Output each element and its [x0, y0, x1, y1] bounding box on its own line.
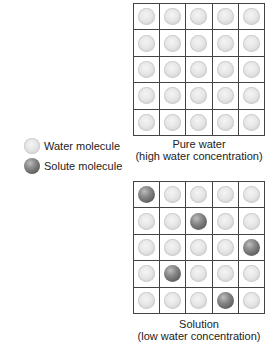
water-molecule-icon — [164, 87, 181, 104]
grid-cell — [239, 30, 265, 56]
grid-cell — [134, 261, 160, 287]
grid-cell — [213, 30, 239, 56]
water-molecule-icon — [164, 35, 181, 52]
water-molecule-icon — [138, 35, 155, 52]
water-molecule-icon — [164, 239, 181, 256]
grid-cell — [186, 57, 212, 83]
grid-cell — [186, 4, 212, 30]
water-molecule-icon — [217, 186, 234, 203]
grid-cell — [213, 288, 239, 314]
water-molecule-icon — [217, 35, 234, 52]
solute-molecule-icon — [243, 239, 260, 256]
water-molecule-icon — [24, 138, 40, 154]
solution-caption: Solution (low water concentration) — [133, 318, 265, 342]
grid-cell — [186, 30, 212, 56]
water-molecule-icon — [164, 8, 181, 25]
grid-cell — [186, 288, 212, 314]
grid-cell — [160, 235, 186, 261]
water-molecule-icon — [217, 265, 234, 282]
grid-cell — [213, 235, 239, 261]
water-molecule-icon — [164, 292, 181, 309]
grid-cell — [186, 261, 212, 287]
grid-cell — [160, 83, 186, 109]
grid-cell — [239, 83, 265, 109]
grid-cell — [213, 182, 239, 208]
water-molecule-icon — [138, 8, 155, 25]
water-molecule-icon — [243, 186, 260, 203]
grid-cell — [186, 208, 212, 234]
water-molecule-icon — [190, 265, 207, 282]
grid-cell — [134, 182, 160, 208]
grid-cell — [134, 110, 160, 136]
grid-cell — [160, 4, 186, 30]
grid-cell — [213, 57, 239, 83]
legend-label-solute: Solute molecule — [44, 160, 122, 172]
water-molecule-icon — [164, 213, 181, 230]
pure-water-caption: Pure water (high water concentration) — [133, 138, 265, 162]
solution-title: Solution — [113, 318, 278, 330]
water-molecule-icon — [138, 61, 155, 78]
legend: Water molecule Solute molecule — [2, 136, 122, 176]
water-molecule-icon — [243, 8, 260, 25]
water-molecule-icon — [190, 292, 207, 309]
water-molecule-icon — [243, 35, 260, 52]
grid-cell — [186, 110, 212, 136]
grid-cell — [239, 4, 265, 30]
grid-cell — [239, 261, 265, 287]
grid-cell — [160, 288, 186, 314]
grid-cell — [134, 235, 160, 261]
water-molecule-icon — [243, 61, 260, 78]
grid-cell — [134, 57, 160, 83]
water-molecule-icon — [138, 239, 155, 256]
water-molecule-icon — [190, 87, 207, 104]
grid-cell — [239, 235, 265, 261]
water-molecule-icon — [138, 213, 155, 230]
grid-cell — [134, 288, 160, 314]
grid-cell — [239, 182, 265, 208]
grid-cell — [134, 4, 160, 30]
grid-cell — [160, 110, 186, 136]
water-molecule-icon — [190, 114, 207, 131]
water-molecule-icon — [138, 114, 155, 131]
water-molecule-icon — [217, 87, 234, 104]
grid-cell — [134, 208, 160, 234]
grid-cell — [186, 182, 212, 208]
solute-molecule-icon — [138, 186, 155, 203]
water-molecule-icon — [164, 61, 181, 78]
pure-water-title: Pure water — [113, 138, 278, 150]
solute-molecule-icon — [217, 292, 234, 309]
water-molecule-icon — [164, 114, 181, 131]
water-molecule-icon — [217, 114, 234, 131]
grid-cell — [213, 261, 239, 287]
water-molecule-icon — [217, 239, 234, 256]
grid-cell — [160, 57, 186, 83]
water-molecule-icon — [138, 87, 155, 104]
grid-cell — [160, 30, 186, 56]
water-molecule-icon — [164, 186, 181, 203]
grid-cell — [134, 83, 160, 109]
grid-cell — [160, 261, 186, 287]
water-molecule-icon — [243, 213, 260, 230]
grid-cell — [213, 4, 239, 30]
water-molecule-icon — [243, 114, 260, 131]
grid-cell — [213, 208, 239, 234]
grid-cell — [134, 30, 160, 56]
water-molecule-icon — [217, 213, 234, 230]
grid-cell — [239, 57, 265, 83]
grid-cell — [186, 83, 212, 109]
water-molecule-icon — [138, 292, 155, 309]
grid-cell — [213, 83, 239, 109]
legend-item-water: Water molecule — [2, 136, 122, 156]
pure-water-subtitle: (high water concentration) — [113, 150, 278, 162]
water-molecule-icon — [190, 8, 207, 25]
water-molecule-icon — [190, 186, 207, 203]
grid-cell — [160, 182, 186, 208]
grid-cell — [160, 208, 186, 234]
solute-molecule-icon — [24, 158, 40, 174]
grid-cell — [239, 288, 265, 314]
grid-cell — [239, 208, 265, 234]
water-molecule-icon — [190, 239, 207, 256]
grid-cell — [239, 110, 265, 136]
solute-molecule-icon — [164, 265, 181, 282]
water-molecule-icon — [190, 35, 207, 52]
